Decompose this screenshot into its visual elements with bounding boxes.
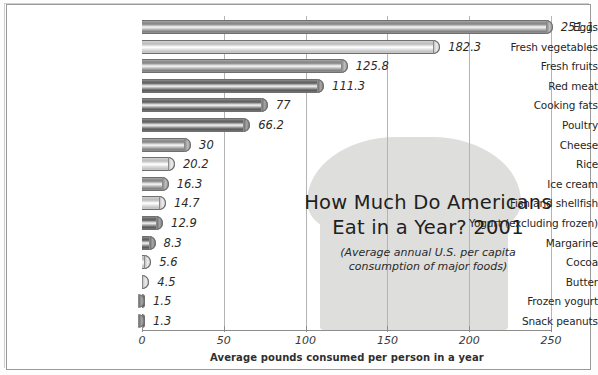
category-label: Frozen yogurt — [460, 291, 598, 311]
bar — [142, 196, 166, 210]
bar-value-label: 20.2 — [183, 154, 209, 174]
bar-value-label: 12.9 — [171, 213, 197, 233]
x-tick — [551, 326, 552, 332]
bar-value-label: 14.7 — [174, 193, 200, 213]
category-label: Rice — [460, 154, 598, 174]
bar — [142, 138, 191, 152]
bar-row: Fresh vegetables182.3 — [0, 37, 598, 57]
bar — [142, 157, 175, 171]
x-tick-label: 200 — [459, 334, 480, 347]
bar — [142, 79, 324, 93]
chart-container: Eggs251.1Fresh vegetables182.3Fresh frui… — [0, 0, 598, 375]
bar-value-label: 111.3 — [332, 76, 365, 96]
bar-value-label: 1.3 — [153, 311, 171, 331]
bar — [142, 275, 149, 289]
bar — [142, 20, 553, 34]
bar-value-label: 251.1 — [561, 17, 594, 37]
plot-area: Eggs251.1Fresh vegetables182.3Fresh frui… — [0, 0, 598, 375]
x-axis-line — [142, 330, 552, 331]
bar — [142, 216, 163, 230]
bar-row: Cooking fats77 — [0, 95, 598, 115]
x-tick — [142, 326, 143, 332]
bar — [142, 177, 169, 191]
bar — [142, 255, 151, 269]
bar-value-label: 77 — [276, 95, 291, 115]
bar-row: Eggs251.1 — [0, 17, 598, 37]
chart-title-line2: Eat in a Year? 2001 — [283, 215, 573, 240]
x-tick-label: 250 — [541, 334, 562, 347]
bar-value-label: 8.3 — [164, 233, 182, 253]
category-label: Red meat — [460, 76, 598, 96]
category-label: Cheese — [460, 135, 598, 155]
bar-row: Cheese30 — [0, 135, 598, 155]
bar-value-label: 4.5 — [157, 272, 175, 292]
x-tick — [387, 326, 388, 332]
bar-row: Red meat111.3 — [0, 76, 598, 96]
bar — [142, 40, 440, 54]
bar-value-label: 182.3 — [448, 37, 481, 57]
bar-row: Frozen yogurt1.5 — [0, 291, 598, 311]
bar-row: Snack peanuts1.3 — [0, 311, 598, 331]
bar-value-label: 30 — [199, 135, 214, 155]
category-label: Cooking fats — [460, 95, 598, 115]
chart-subtitle-line1: (Average annual U.S. per capita — [283, 246, 573, 260]
chart-subtitle-line2: consumption of major foods) — [283, 260, 573, 274]
category-label: Snack peanuts — [460, 311, 598, 331]
bar-value-label: 125.8 — [356, 56, 389, 76]
x-tick-label: 150 — [377, 334, 398, 347]
bar-row: Rice20.2 — [0, 154, 598, 174]
x-tick — [469, 326, 470, 332]
x-tick-label: 0 — [139, 334, 146, 347]
category-label: Fresh fruits — [460, 56, 598, 76]
x-axis-label: Average pounds consumed per person in a … — [142, 352, 552, 363]
bar — [142, 294, 145, 308]
bar-row: Fresh fruits125.8 — [0, 56, 598, 76]
category-label: Butter — [460, 272, 598, 292]
bar-value-label: 1.5 — [153, 291, 171, 311]
bar — [142, 59, 348, 73]
x-tick-label: 50 — [217, 334, 231, 347]
category-label: Poultry — [460, 115, 598, 135]
x-tick-label: 100 — [295, 334, 316, 347]
bar — [142, 98, 268, 112]
bar-value-label: 16.3 — [177, 174, 203, 194]
bar-value-label: 66.2 — [258, 115, 284, 135]
bar-row: Poultry66.2 — [0, 115, 598, 135]
bar — [142, 236, 156, 250]
bar-value-label: 5.6 — [159, 252, 177, 272]
bar — [142, 118, 250, 132]
title-block: How Much Do Americans Eat in a Year? 200… — [283, 190, 573, 274]
chart-subtitle: (Average annual U.S. per capita consumpt… — [283, 246, 573, 274]
x-tick — [224, 326, 225, 332]
x-tick — [306, 326, 307, 332]
chart-title-line1: How Much Do Americans — [283, 190, 573, 215]
bar-row: Butter4.5 — [0, 272, 598, 292]
